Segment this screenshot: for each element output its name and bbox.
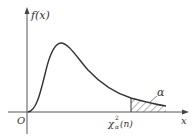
y-axis-arrow-icon: [25, 7, 30, 14]
x-axis-label: x: [181, 115, 187, 126]
chi-squared-diagram: f(x) O x α χ 2 α (n): [0, 0, 193, 136]
density-curve: [28, 43, 166, 112]
y-axis-label: f(x): [30, 9, 50, 22]
alpha-leader: [150, 96, 157, 102]
svg-text:α: α: [115, 123, 119, 130]
svg-text:(n): (n): [120, 119, 133, 129]
quantile-label: χ 2 α (n): [107, 114, 133, 130]
alpha-label: α: [157, 86, 165, 99]
svg-text:χ: χ: [107, 118, 115, 129]
x-axis-arrow-icon: [182, 110, 189, 115]
svg-text:2: 2: [115, 114, 119, 121]
origin-label: O: [17, 115, 25, 126]
